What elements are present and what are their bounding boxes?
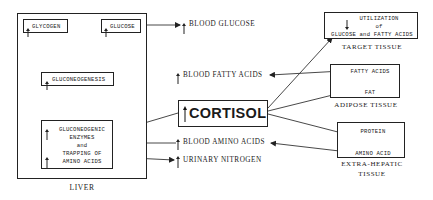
target-line-3: GLUCOSE and FATTY ACIDS (325, 31, 419, 38)
up-arrow-icon (176, 153, 180, 172)
enzymes-line-5: AMINO ACIDS (51, 158, 113, 165)
blood-fatty-acids-label: BLOOD FATTY ACIDS (183, 71, 263, 79)
up-arrow-icon (176, 69, 180, 88)
up-arrow-icon (176, 135, 180, 154)
enzymes-line-2: ENZYMES (51, 134, 113, 141)
enzymes-line-1: GLUCONEOGENIC (51, 126, 113, 133)
target-tissue-label: TARGET TISSUE (326, 43, 418, 51)
glycogen-label: GLYCOGEN (32, 23, 60, 30)
up-arrow-icon (26, 22, 30, 41)
glycogen-box: GLYCOGEN (23, 19, 68, 33)
urinary-nitrogen-label: URINARY NITROGEN (183, 156, 262, 164)
up-arrow-icon (45, 75, 49, 94)
gluconeogenesis-box: GLUCONEOGENESIS (41, 72, 114, 86)
blood-glucose-label: BLOOD GLUCOSE (189, 20, 255, 28)
blood-amino-acids-label: BLOOD AMINO ACIDS (183, 138, 265, 146)
up-arrow-icon (183, 106, 187, 126)
extra-hepatic-label-line-1: EXTRA-HEPATIC (334, 160, 410, 168)
cortisol-box: CORTISOL (178, 100, 268, 127)
up-arrow-icon (104, 22, 108, 41)
gluconeogenesis-label: GLUCONEOGENESIS (52, 76, 105, 83)
adipose-fat: FAT (341, 89, 399, 96)
target-tissue-box: UTILIZATION of GLUCOSE and FATTY ACIDS (324, 12, 418, 39)
extra-hepatic-tissue-box: PROTEIN AMINO ACID (337, 122, 405, 158)
extra-hepatic-amino-acid: AMINO ACID (342, 150, 404, 157)
extra-hepatic-label-line-2: TISSUE (334, 170, 410, 178)
glucose-box: GLUCOSE (101, 19, 141, 33)
cortisol-label: CORTISOL (189, 105, 266, 121)
liver-label: LIVER (57, 183, 107, 192)
enzymes-line-4: TRAPPING OF (51, 150, 113, 157)
up-arrow-icon (182, 19, 186, 38)
target-line-2: of (347, 23, 411, 30)
extra-hepatic-protein: PROTEIN (342, 128, 404, 135)
up-arrow-icon (45, 153, 49, 172)
adipose-tissue-label: ADIPOSE TISSUE (328, 101, 404, 109)
enzymes-line-3: and (51, 142, 113, 149)
gluconeogenic-enzymes-box: GLUCONEOGENIC ENZYMES and TRAPPING OF AM… (41, 120, 113, 169)
up-arrow-icon (45, 125, 49, 144)
adipose-fatty-acids: FATTY ACIDS (341, 68, 399, 75)
target-line-1: UTILIZATION (347, 15, 411, 22)
adipose-tissue-box: FATTY ACIDS FAT (330, 64, 400, 98)
glucose-label: GLUCOSE (110, 23, 135, 30)
